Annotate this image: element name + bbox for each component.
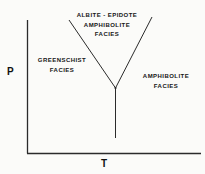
facies-pt-diagram: ALBITE - EPIDOTE AMPHIBOLITE FACIES GREE…: [0, 0, 205, 174]
region-label-line: GREENSCHIST: [22, 56, 102, 66]
y-axis-label: P: [7, 67, 14, 77]
triple-point: [114, 87, 116, 89]
region-label-line: FACIES: [67, 30, 147, 40]
region-label-albite-epidote-amphibolite: ALBITE - EPIDOTE AMPHIBOLITE FACIES: [67, 11, 147, 40]
region-label-line: FACIES: [126, 82, 205, 92]
region-label-line: ALBITE - EPIDOTE: [67, 11, 147, 21]
region-label-greenschist: GREENSCHIST FACIES: [22, 56, 102, 75]
region-label-amphibolite: AMPHIBOLITE FACIES: [126, 72, 205, 91]
region-label-line: FACIES: [22, 66, 102, 76]
x-axis-label: T: [101, 159, 107, 169]
region-label-line: AMPHIBOLITE: [126, 72, 205, 82]
region-label-line: AMPHIBOLITE: [67, 21, 147, 31]
